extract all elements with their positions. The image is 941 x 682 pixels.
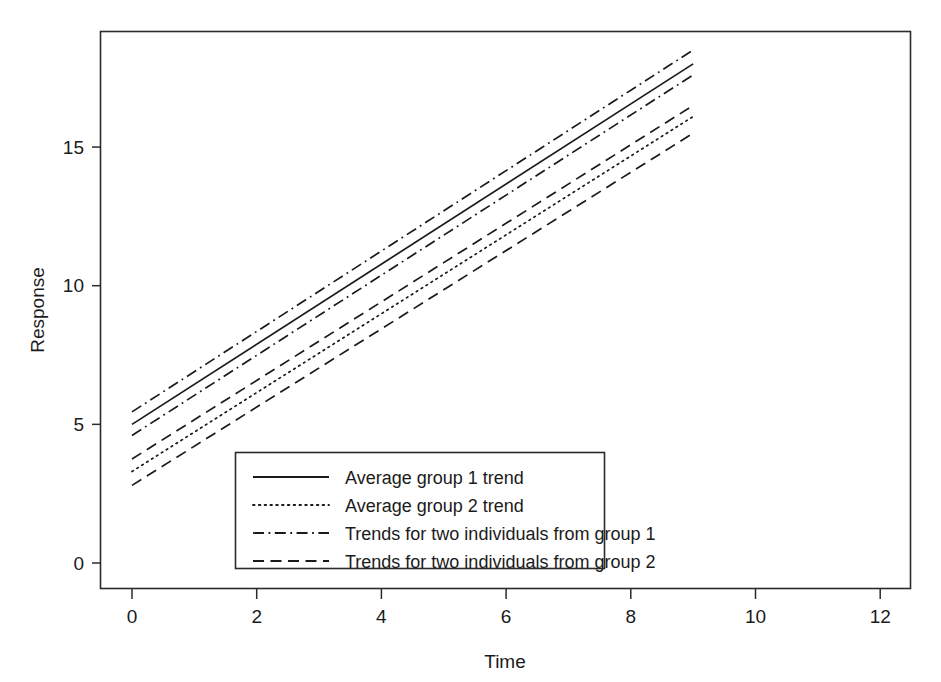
series-line [132,75,693,435]
x-tick-label: 6 [501,606,512,627]
chart-figure: 051015 024681012 Average group 1 trendAv… [0,0,941,682]
x-tick-label: 12 [870,606,891,627]
series-line [132,117,693,472]
y-axis-title: Response [27,267,48,353]
x-axis-title: Time [484,651,526,672]
legend-label: Trends for two individuals from group 2 [345,552,655,572]
chart-legend: Average group 1 trendAverage group 2 tre… [236,453,656,572]
series-line [132,64,693,424]
y-tick-label: 5 [73,414,84,435]
data-series-group [132,50,693,485]
series-line [132,105,693,459]
x-tick-label: 10 [745,606,766,627]
y-axis-tick-labels: 051015 [63,137,84,574]
y-axis-ticks [92,147,100,563]
series-line [132,50,693,412]
series-line [132,133,693,485]
line-chart: 051015 024681012 Average group 1 trendAv… [0,0,941,682]
legend-label: Average group 1 trend [345,468,524,488]
y-tick-label: 15 [63,137,84,158]
x-tick-label: 2 [251,606,262,627]
x-tick-label: 8 [626,606,637,627]
x-tick-label: 4 [376,606,387,627]
x-axis-tick-labels: 024681012 [127,606,891,627]
legend-label: Trends for two individuals from group 1 [345,524,655,544]
legend-label: Average group 2 trend [345,496,524,516]
x-axis-ticks [132,588,880,599]
x-tick-label: 0 [127,606,138,627]
y-tick-label: 0 [73,553,84,574]
y-tick-label: 10 [63,275,84,296]
